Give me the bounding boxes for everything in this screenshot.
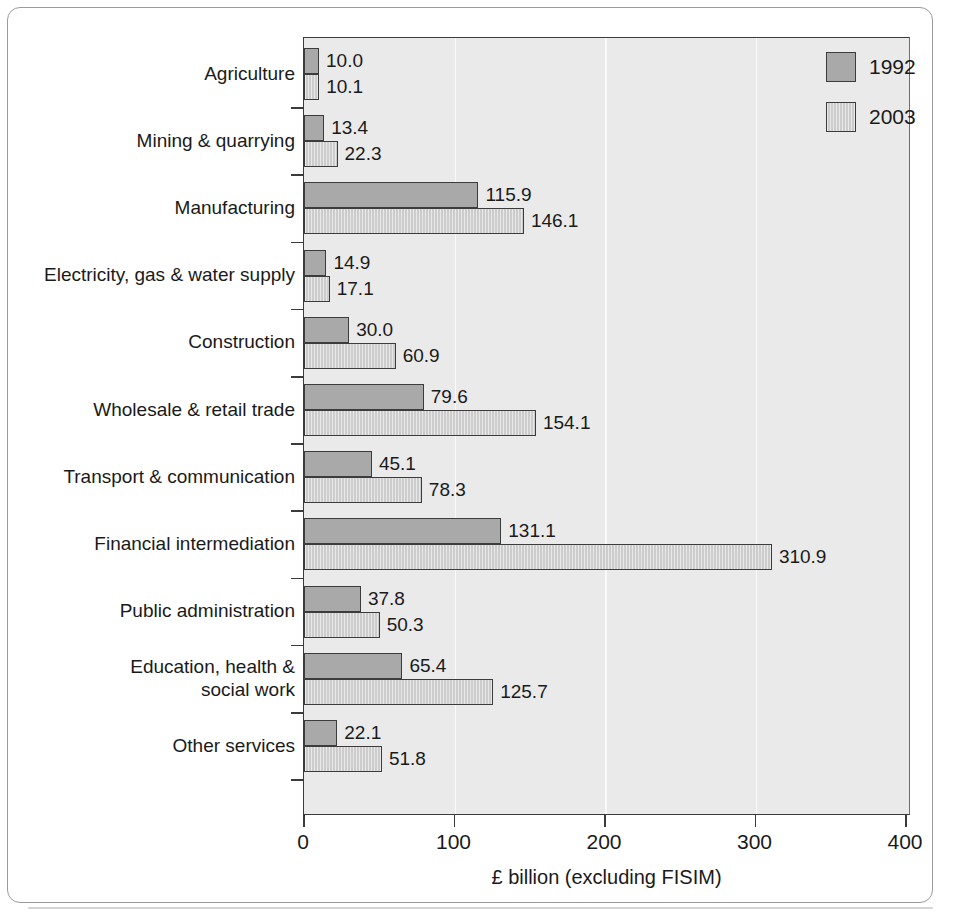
category-label-9: Public administration (5, 599, 295, 622)
bar-1992-2[interactable] (304, 115, 324, 141)
bar-1992-3[interactable] (304, 182, 478, 208)
x-tick-200 (604, 815, 606, 827)
category-tick-2 (291, 174, 303, 176)
category-tick-11 (291, 779, 303, 781)
category-label-3: Manufacturing (5, 196, 295, 219)
bar-1992-4[interactable] (304, 250, 326, 276)
x-tick-100 (454, 815, 456, 827)
value-label-2003-6: 154.1 (543, 410, 591, 436)
value-label-1992-7: 45.1 (379, 451, 416, 477)
value-label-1992-5: 30.0 (356, 317, 393, 343)
category-tick-3 (291, 242, 303, 244)
value-label-1992-2: 13.4 (331, 115, 368, 141)
category-label-1: Agriculture (5, 62, 295, 85)
value-label-2003-4: 17.1 (337, 276, 374, 302)
x-tick-label-200: 200 (586, 830, 621, 854)
category-label-4: Electricity, gas & water supply (5, 263, 295, 286)
value-label-1992-9: 37.8 (368, 586, 405, 612)
bar-1992-10[interactable] (304, 653, 402, 679)
value-label-1992-11: 22.1 (344, 720, 381, 746)
series-1992-swatch-icon (826, 52, 856, 82)
x-tick-300 (755, 815, 757, 827)
x-tick-label-400: 400 (887, 830, 922, 854)
bar-2003-11[interactable] (304, 746, 382, 772)
bar-2003-1[interactable] (304, 74, 319, 100)
bar-1992-5[interactable] (304, 317, 349, 343)
bar-2003-7[interactable] (304, 477, 422, 503)
x-tick-label-100: 100 (436, 830, 471, 854)
legend-label-1992: 1992 (869, 55, 916, 79)
bar-2003-3[interactable] (304, 208, 524, 234)
bar-1992-9[interactable] (304, 586, 361, 612)
category-tick-5 (291, 376, 303, 378)
gridline-200 (605, 38, 607, 814)
x-tick-label-0: 0 (297, 830, 309, 854)
x-axis-title: £ billion (excluding FISIM) (303, 866, 910, 889)
gridline-300 (756, 38, 758, 814)
bar-1992-11[interactable] (304, 720, 337, 746)
bar-2003-6[interactable] (304, 410, 536, 436)
category-tick-10 (291, 712, 303, 714)
bar-2003-10[interactable] (304, 679, 493, 705)
category-tick-6 (291, 443, 303, 445)
value-label-2003-8: 310.9 (779, 544, 827, 570)
chart-legend: 1992 2003 (826, 52, 906, 152)
legend-label-2003: 2003 (869, 105, 916, 129)
value-label-2003-3: 146.1 (531, 208, 579, 234)
value-label-2003-7: 78.3 (429, 477, 466, 503)
bar-2003-2[interactable] (304, 141, 338, 167)
bar-1992-7[interactable] (304, 451, 372, 477)
value-label-1992-1: 10.0 (326, 48, 363, 74)
category-tick-7 (291, 510, 303, 512)
bar-2003-9[interactable] (304, 612, 380, 638)
category-tick-9 (291, 645, 303, 647)
bar-2003-5[interactable] (304, 343, 396, 369)
legend-entry-1992[interactable]: 1992 (826, 52, 906, 82)
category-label-6: Wholesale & retail trade (5, 398, 295, 421)
value-label-1992-8: 131.1 (508, 518, 556, 544)
x-tick-0 (303, 815, 305, 827)
bar-1992-1[interactable] (304, 48, 319, 74)
category-label-8: Financial intermediation (5, 532, 295, 555)
value-label-1992-6: 79.6 (431, 384, 468, 410)
series-2003-swatch-icon (826, 102, 856, 132)
x-tick-400 (905, 815, 907, 827)
value-label-1992-4: 14.9 (333, 250, 370, 276)
category-label-2: Mining & quarrying (5, 129, 295, 152)
bar-2003-4[interactable] (304, 276, 330, 302)
value-label-2003-10: 125.7 (500, 679, 548, 705)
value-label-1992-3: 115.9 (485, 182, 531, 208)
category-label-5: Construction (5, 330, 295, 353)
bar-chart: 10.010.113.422.3115.9146.114.917.130.060… (0, 0, 954, 922)
value-label-2003-2: 22.3 (345, 141, 382, 167)
category-label-11: Other services (5, 734, 295, 757)
bar-1992-8[interactable] (304, 518, 501, 544)
x-tick-label-300: 300 (737, 830, 772, 854)
legend-entry-2003[interactable]: 2003 (826, 102, 906, 132)
category-label-10: Education, health & social work (5, 655, 295, 701)
category-tick-8 (291, 578, 303, 580)
plot-area: 10.010.113.422.3115.9146.114.917.130.060… (303, 37, 910, 815)
value-label-2003-11: 51.8 (389, 746, 426, 772)
bar-2003-8[interactable] (304, 544, 772, 570)
category-tick-4 (291, 309, 303, 311)
category-label-7: Transport & communication (5, 465, 295, 488)
value-label-2003-5: 60.9 (403, 343, 440, 369)
category-tick-1 (291, 107, 303, 109)
value-label-1992-10: 65.4 (409, 653, 446, 679)
bar-1992-6[interactable] (304, 384, 424, 410)
value-label-2003-9: 50.3 (387, 612, 424, 638)
value-label-2003-1: 10.1 (326, 74, 363, 100)
